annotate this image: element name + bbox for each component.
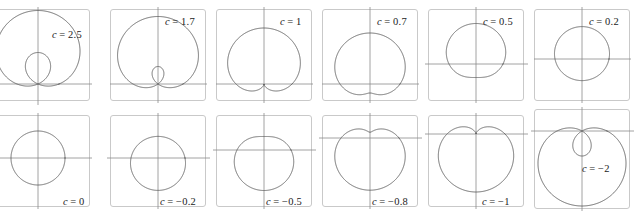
limacon-panel: c = −0.8 (318, 106, 424, 212)
parameter-value: = 0.7 (382, 16, 407, 27)
parameter-label: c = 0.2 (589, 16, 619, 27)
parameter-value: = 0.2 (594, 16, 619, 27)
panel-plot (530, 0, 636, 106)
limacon-panel: c = −1 (424, 106, 530, 212)
panel-plot (0, 106, 106, 212)
panel-plot (530, 106, 636, 212)
limacon-curve (0, 11, 80, 87)
parameter-value: = 0 (68, 196, 85, 207)
parameter-label: c = −0.5 (266, 196, 302, 207)
parameter-value: = −0.5 (271, 196, 302, 207)
limacon-panel: c = 2.5 (0, 0, 106, 106)
parameter-value: = 1 (285, 16, 302, 27)
limacon-panel: c = 1.7 (106, 0, 212, 106)
limacon-panel: c = 0.7 (318, 0, 424, 106)
parameter-label: c = −1 (482, 196, 510, 207)
parameter-value: = −0.8 (377, 196, 408, 207)
panel-plot (106, 0, 212, 106)
panel-plot (212, 0, 318, 106)
parameter-value: = −2 (587, 163, 610, 174)
parameter-label: c = 1 (280, 16, 302, 27)
parameter-label: c = 2.5 (52, 29, 82, 40)
limacon-panel: c = 1 (212, 0, 318, 106)
limacon-panel: c = −2 (530, 106, 636, 212)
parameter-label: c = 0.7 (377, 16, 407, 27)
parameter-value: = 1.7 (170, 16, 195, 27)
panel-plot (106, 106, 212, 212)
panel-plot (0, 0, 106, 106)
limacon-panel: c = 0 (0, 106, 106, 212)
parameter-label: c = 0.5 (483, 16, 513, 27)
parameter-value: = 2.5 (57, 29, 82, 40)
parameter-value: = −0.2 (165, 196, 196, 207)
limacon-figure: c = 2.5c = 1.7c = 1c = 0.7c = 0.5c = 0.2… (0, 0, 636, 211)
limacon-panel: c = −0.2 (106, 106, 212, 212)
parameter-label: c = 0 (63, 196, 85, 207)
panel-plot (318, 0, 424, 106)
panel-plot (424, 0, 530, 106)
panel-grid: c = 2.5c = 1.7c = 1c = 0.7c = 0.5c = 0.2… (0, 0, 636, 211)
parameter-value: = −1 (487, 196, 510, 207)
panel-plot (318, 106, 424, 212)
parameter-label: c = 1.7 (165, 16, 195, 27)
parameter-label: c = −2 (582, 163, 610, 174)
parameter-label: c = −0.8 (372, 196, 408, 207)
limacon-panel: c = 0.5 (424, 0, 530, 106)
limacon-panel: c = −0.5 (212, 106, 318, 212)
panel-plot (212, 106, 318, 212)
panel-plot (424, 106, 530, 212)
parameter-label: c = −0.2 (160, 196, 196, 207)
limacon-panel: c = 0.2 (530, 0, 636, 106)
parameter-value: = 0.5 (488, 16, 513, 27)
